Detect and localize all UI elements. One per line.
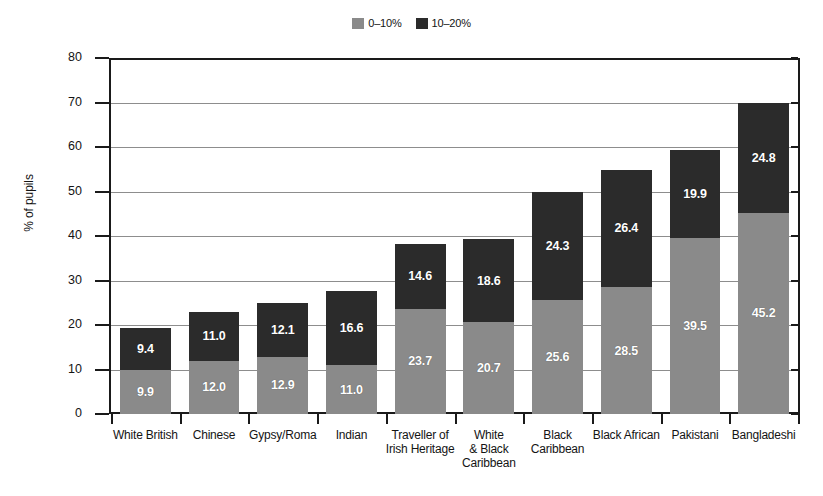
bar-value-label: 24.3 <box>546 240 570 252</box>
x-tick-mark <box>592 414 594 424</box>
bar-segment[interactable]: 11.0 <box>326 365 377 414</box>
bar-stack[interactable]: 12.112.9 <box>257 303 308 414</box>
y-tick-label-50: 50 <box>20 185 82 197</box>
bar-segment[interactable]: 19.9 <box>670 150 721 239</box>
bar-value-label: 12.9 <box>271 379 295 391</box>
bar-value-label: 11.0 <box>340 384 363 396</box>
bar-stack[interactable]: 24.845.2 <box>738 103 789 414</box>
y-tick-label-70: 70 <box>20 96 82 108</box>
bar-stack[interactable]: 24.325.6 <box>532 192 583 414</box>
y-tick-mark-70 <box>95 102 109 104</box>
x-axis-labels: White BritishChineseGypsy/RomaIndianTrav… <box>111 428 798 488</box>
chart-legend: 0–10% 10–20% <box>0 18 823 29</box>
bar-segment[interactable]: 11.0 <box>189 312 240 361</box>
x-tick-mark <box>386 414 388 424</box>
y-tick-label-60: 60 <box>20 140 82 152</box>
bar-segment[interactable]: 12.0 <box>189 361 240 414</box>
y-tick-mark-0 <box>95 413 109 415</box>
bar-value-label: 12.0 <box>202 381 226 393</box>
bar-value-label: 28.5 <box>614 345 638 357</box>
bar-segment[interactable]: 24.8 <box>738 103 789 213</box>
y-tick-label-0: 0 <box>20 407 82 419</box>
y-tick-label-10: 10 <box>20 363 82 375</box>
bar-slot: 19.939.5 <box>670 58 721 414</box>
bar-segment[interactable]: 23.7 <box>395 309 446 414</box>
bar-segment[interactable]: 18.6 <box>463 239 514 322</box>
bar-value-label: 11.0 <box>203 330 226 342</box>
bar-slot: 24.325.6 <box>532 58 583 414</box>
legend-swatch-dark-icon <box>416 18 428 29</box>
bar-value-label: 9.9 <box>137 386 154 398</box>
bar-segment[interactable]: 16.6 <box>326 291 377 365</box>
bar-segment[interactable]: 28.5 <box>601 287 652 414</box>
y-tick-label-40: 40 <box>20 229 82 241</box>
bar-stack[interactable]: 11.012.0 <box>189 312 240 414</box>
bar-stack[interactable]: 9.49.9 <box>120 328 171 414</box>
y-tick-mark-60 <box>95 146 109 148</box>
bar-value-label: 12.1 <box>271 324 295 336</box>
bar-segment[interactable]: 9.9 <box>120 370 171 414</box>
bar-slot: 9.49.9 <box>120 58 171 414</box>
y-tick-mark-20 <box>95 324 109 326</box>
legend-swatch-light-icon <box>352 18 364 29</box>
bar-stack[interactable]: 26.428.5 <box>601 170 652 414</box>
bar-value-label: 45.2 <box>752 307 776 319</box>
bar-stack[interactable]: 18.620.7 <box>463 239 514 414</box>
bars-container: 9.49.911.012.012.112.916.611.014.623.718… <box>111 58 798 414</box>
x-tick-mark <box>317 414 319 424</box>
bar-stack[interactable]: 16.611.0 <box>326 291 377 414</box>
y-tick-label-20: 20 <box>20 318 82 330</box>
bar-stack[interactable]: 14.623.7 <box>395 244 446 414</box>
bar-segment[interactable]: 14.6 <box>395 244 446 309</box>
bar-segment[interactable]: 12.1 <box>257 303 308 357</box>
x-axis-label-line: Caribbean <box>514 442 601 456</box>
bar-segment[interactable]: 20.7 <box>463 322 514 414</box>
bar-slot: 26.428.5 <box>601 58 652 414</box>
bar-segment[interactable]: 39.5 <box>670 238 721 414</box>
bar-value-label: 20.7 <box>477 362 501 374</box>
y-tick-mark-40 <box>95 235 109 237</box>
bar-slot: 14.623.7 <box>395 58 446 414</box>
bar-value-label: 26.4 <box>614 222 638 234</box>
legend-label-10-20: 10–20% <box>432 18 471 29</box>
bar-slot: 11.012.0 <box>189 58 240 414</box>
x-tick-mark <box>729 414 731 424</box>
bar-segment[interactable]: 12.9 <box>257 357 308 414</box>
x-tick-mark <box>523 414 525 424</box>
bar-value-label: 23.7 <box>408 355 432 367</box>
bar-slot: 24.845.2 <box>738 58 789 414</box>
bar-segment[interactable]: 26.4 <box>601 170 652 287</box>
bar-value-label: 39.5 <box>683 320 707 332</box>
bar-slot: 18.620.7 <box>463 58 514 414</box>
x-axis-label-line: Caribbean <box>446 456 533 470</box>
x-tick-mark <box>111 414 113 424</box>
legend-item-10-20[interactable]: 10–20% <box>416 18 471 29</box>
legend-label-0-10: 0–10% <box>368 18 401 29</box>
x-tick-mark <box>798 414 800 424</box>
x-axis-label-line: Bangladeshi <box>720 428 807 442</box>
bar-value-label: 24.8 <box>752 152 776 164</box>
bar-value-label: 16.6 <box>340 322 364 334</box>
bar-value-label: 9.4 <box>137 343 154 355</box>
bar-slot: 12.112.9 <box>257 58 308 414</box>
bar-segment[interactable]: 25.6 <box>532 300 583 414</box>
bar-segment[interactable]: 24.3 <box>532 192 583 300</box>
bar-stack[interactable]: 19.939.5 <box>670 150 721 414</box>
x-tick-mark <box>661 414 663 424</box>
bar-value-label: 25.6 <box>546 351 570 363</box>
y-tick-mark-80 <box>95 57 109 59</box>
x-axis-label-9: Bangladeshi <box>720 428 807 442</box>
y-tick-mark-10 <box>95 369 109 371</box>
stacked-bar-chart: 0–10% 10–20% % of pupils 807060504030201… <box>0 0 823 496</box>
legend-item-0-10[interactable]: 0–10% <box>352 18 401 29</box>
x-tick-mark <box>455 414 457 424</box>
y-axis-title: % of pupils <box>22 143 36 263</box>
bar-value-label: 14.6 <box>408 270 432 282</box>
bar-slot: 16.611.0 <box>326 58 377 414</box>
x-tick-mark <box>248 414 250 424</box>
bar-value-label: 19.9 <box>683 188 707 200</box>
bar-segment[interactable]: 9.4 <box>120 328 171 370</box>
y-tick-mark-50 <box>95 191 109 193</box>
bar-value-label: 18.6 <box>477 275 501 287</box>
bar-segment[interactable]: 45.2 <box>738 213 789 414</box>
